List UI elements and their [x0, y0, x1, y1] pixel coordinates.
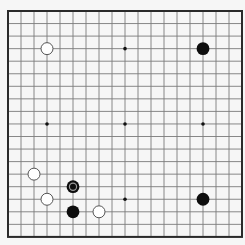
- black-stone-icon: [197, 193, 210, 206]
- star-point-icon: [201, 122, 205, 126]
- white-stone-icon: [28, 168, 40, 180]
- star-point-icon: [123, 197, 127, 201]
- black-stone: [197, 42, 210, 55]
- star-point-icon: [123, 47, 127, 51]
- star-point-icon: [123, 122, 127, 126]
- stones-layer: [28, 42, 209, 218]
- white-stone: [41, 193, 53, 205]
- black-stone: [67, 205, 80, 218]
- black-stone-last-move: [67, 180, 80, 193]
- go-board[interactable]: [0, 0, 245, 245]
- white-stone: [28, 168, 40, 180]
- white-stone-icon: [41, 193, 53, 205]
- black-stone: [197, 193, 210, 206]
- black-stone-icon: [67, 180, 80, 193]
- star-point-icon: [45, 122, 49, 126]
- white-stone-icon: [41, 43, 53, 55]
- black-stone-icon: [67, 205, 80, 218]
- go-board-canvas[interactable]: [0, 0, 245, 245]
- white-stone: [93, 206, 105, 218]
- white-stone: [41, 43, 53, 55]
- black-stone-icon: [197, 42, 210, 55]
- white-stone-icon: [93, 206, 105, 218]
